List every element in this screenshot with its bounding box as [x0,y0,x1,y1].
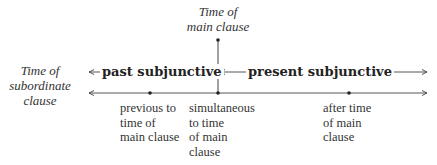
past-subjunctive-label: past subjunctive [100,64,224,79]
main-clause-label-line: main clause [168,19,268,34]
point-after-dot [347,91,351,95]
subordinate-clause-label-line: Time of [0,63,80,78]
point-label-line: simultaneous [189,101,255,116]
point-previous-dot [148,91,152,95]
point-label-line: to time [189,116,255,131]
point-label-line: time of [120,116,179,131]
point-label-line: clause [189,145,255,160]
point-after-label: after time of main clause [323,101,371,145]
point-simultaneous-dot [216,91,220,95]
main-clause-top-dot [216,38,220,42]
present-subjunctive-label: present subjunctive [246,64,394,79]
point-label-line: of main [323,116,371,131]
point-simultaneous-label: simultaneous to time of main clause [189,101,255,159]
point-label-line: after time [323,101,371,116]
subordinate-clause-label-line: subordinate [0,78,80,93]
point-previous-label: previous to time of main clause [120,101,179,145]
main-clause-label-line: Time of [168,4,268,19]
point-label-line: of main [189,130,255,145]
subordinate-clause-label-line: clause [0,93,80,108]
subordinate-clause-label: Time of subordinate clause [0,63,80,108]
main-clause-label: Time of main clause [168,4,268,34]
point-label-line: clause [323,130,371,145]
point-label-line: previous to [120,101,179,116]
point-label-line: main clause [120,130,179,145]
